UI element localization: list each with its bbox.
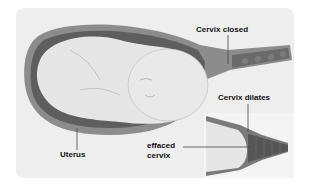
label-uterus: Uterus — [60, 150, 85, 159]
label-cervix-closed: Cervix closed — [196, 25, 248, 34]
label-cervix-dilates: Cervix dilates — [218, 93, 270, 102]
label-effaced-line1: effaced — [147, 141, 175, 150]
label-effaced-line2: cervix — [147, 151, 170, 160]
